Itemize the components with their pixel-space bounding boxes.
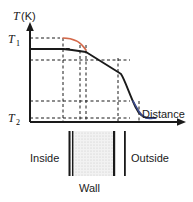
region-label-inside: Inside — [30, 152, 59, 164]
y-axis-label-symbol: T — [13, 9, 21, 23]
temperature-profile-figure: T (K) T 1 T 2 Distance Inside Outside — [0, 0, 193, 202]
wall-inner-face-line-inner — [72, 131, 73, 176]
y-axis-label-unit: (K) — [21, 10, 36, 22]
region-label-wall: Wall — [79, 182, 100, 194]
y-tick-label-t2-symbol: T — [8, 111, 16, 125]
wall-body — [70, 131, 115, 176]
wall-cross-section — [69, 131, 126, 176]
outside-film-face-line — [124, 131, 126, 176]
y-axis-arrowhead — [26, 22, 34, 31]
x-axis-label: Distance — [142, 108, 185, 120]
wall-outer-face-line — [113, 131, 115, 176]
temperature-profile-chart: T (K) T 1 T 2 Distance Inside Outside — [0, 0, 193, 202]
wall-inner-face-line-outer — [69, 131, 71, 176]
region-label-outside: Outside — [131, 152, 169, 164]
y-tick-label-t1-symbol: T — [8, 32, 16, 46]
y-tick-label-t2-subscript: 2 — [16, 118, 20, 127]
y-tick-label-t1-subscript: 1 — [16, 39, 20, 48]
